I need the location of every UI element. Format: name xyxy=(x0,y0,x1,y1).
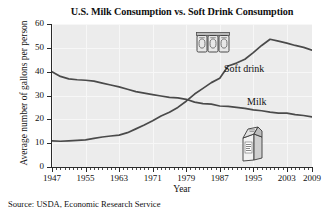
x-axis-tick-minor xyxy=(249,168,250,170)
x-axis-tick-minor xyxy=(203,168,204,170)
y-axis-tick xyxy=(47,119,52,120)
x-axis-tick-minor xyxy=(195,168,196,170)
x-axis-tick-minor xyxy=(161,168,162,170)
x-axis-tick-minor xyxy=(65,168,66,170)
y-axis-tick-label: 20 xyxy=(4,114,44,123)
x-axis-tick-minor xyxy=(304,168,305,170)
y-axis-tick xyxy=(47,143,52,144)
x-axis-tick-minor xyxy=(299,168,300,170)
chart-title: U.S. Milk Consumption vs. Soft Drink Con… xyxy=(52,6,312,18)
x-axis-tick-minor xyxy=(56,168,57,170)
x-axis-tick-major xyxy=(312,168,313,172)
x-axis-tick-label: 1995 xyxy=(235,173,271,183)
x-axis-tick-minor xyxy=(245,168,246,170)
soft-drink-series-label: Soft drink xyxy=(224,63,264,74)
x-axis-tick-minor xyxy=(262,168,263,170)
x-axis-tick-minor xyxy=(308,168,309,170)
x-axis-tick-label: 1971 xyxy=(135,173,171,183)
x-axis-tick-minor xyxy=(270,168,271,170)
y-axis-tick xyxy=(47,72,52,73)
y-axis-tick-label: 30 xyxy=(4,91,44,100)
x-axis-tick-minor xyxy=(90,168,91,170)
x-axis-tick-minor xyxy=(127,168,128,170)
series-line-soft-drink xyxy=(52,39,312,141)
x-axis-tick-major xyxy=(253,168,254,172)
source-note: Source: USDA, Economic Research Service xyxy=(8,199,161,209)
x-axis-tick-label: 1955 xyxy=(68,173,104,183)
x-axis-tick-minor xyxy=(107,168,108,170)
x-axis-tick-minor xyxy=(123,168,124,170)
x-axis-tick-minor xyxy=(81,168,82,170)
x-axis-tick-minor xyxy=(199,168,200,170)
x-axis-tick-minor xyxy=(232,168,233,170)
x-axis-tick-minor xyxy=(169,168,170,170)
x-axis-tick-minor xyxy=(207,168,208,170)
x-axis-tick-minor xyxy=(257,168,258,170)
x-axis-tick-major xyxy=(287,168,288,172)
y-axis-tick xyxy=(47,24,52,25)
x-axis-tick-minor xyxy=(77,168,78,170)
x-axis-tick-minor xyxy=(216,168,217,170)
x-axis-tick-major xyxy=(220,168,221,172)
y-axis-tick-label: 60 xyxy=(4,19,44,28)
soda-cans-icon xyxy=(196,32,230,53)
y-axis-tick-label: 0 xyxy=(4,162,44,171)
x-axis-tick-minor xyxy=(69,168,70,170)
x-axis-tick-minor xyxy=(144,168,145,170)
x-axis-tick-major xyxy=(119,168,120,172)
x-axis-tick-minor xyxy=(111,168,112,170)
x-axis-tick-minor xyxy=(115,168,116,170)
x-axis-tick-major xyxy=(86,168,87,172)
x-axis-tick-minor xyxy=(224,168,225,170)
x-axis-tick-minor xyxy=(165,168,166,170)
x-axis-tick-minor xyxy=(98,168,99,170)
x-axis-tick-minor xyxy=(94,168,95,170)
y-axis-tick xyxy=(47,96,52,97)
x-axis-tick-minor xyxy=(157,168,158,170)
x-axis-tick-label: 1947 xyxy=(34,173,70,183)
x-axis-tick-label: 2009 xyxy=(294,173,330,183)
y-axis-tick-label: 50 xyxy=(4,43,44,52)
chart-figure: U.S. Milk Consumption vs. Soft Drink Con… xyxy=(0,0,331,217)
series-layer xyxy=(52,24,312,167)
x-axis-tick-minor xyxy=(102,168,103,170)
milk-carton-icon xyxy=(241,126,264,162)
x-axis-tick-minor xyxy=(190,168,191,170)
x-axis-tick-minor xyxy=(140,168,141,170)
y-axis-tick-label: 10 xyxy=(4,138,44,147)
x-axis-tick-minor xyxy=(60,168,61,170)
x-axis-tick-minor xyxy=(237,168,238,170)
x-axis-tick-minor xyxy=(148,168,149,170)
x-axis-tick-minor xyxy=(73,168,74,170)
x-axis-tick-minor xyxy=(283,168,284,170)
x-axis-tick-label: 1963 xyxy=(101,173,137,183)
x-axis-tick-minor xyxy=(241,168,242,170)
x-axis-tick-minor xyxy=(274,168,275,170)
x-axis-tick-minor xyxy=(178,168,179,170)
x-axis-tick-minor xyxy=(266,168,267,170)
x-axis-tick-minor xyxy=(136,168,137,170)
x-axis-tick-minor xyxy=(228,168,229,170)
x-axis-tick-label: 1987 xyxy=(202,173,238,183)
x-axis-tick-major xyxy=(52,168,53,172)
y-axis-tick-label: 40 xyxy=(4,67,44,76)
x-axis-tick-minor xyxy=(174,168,175,170)
x-axis-tick-major xyxy=(186,168,187,172)
x-axis-title: Year xyxy=(52,184,312,194)
x-axis-tick-minor xyxy=(295,168,296,170)
plot-area xyxy=(52,24,312,167)
y-axis-tick xyxy=(47,48,52,49)
x-axis-tick-label: 1979 xyxy=(168,173,204,183)
x-axis-tick-minor xyxy=(132,168,133,170)
series-line-milk xyxy=(52,72,312,117)
x-axis-tick-minor xyxy=(211,168,212,170)
x-axis-tick-minor xyxy=(291,168,292,170)
x-axis-tick-minor xyxy=(278,168,279,170)
x-axis-tick-minor xyxy=(182,168,183,170)
milk-series-label: Milk xyxy=(247,96,266,107)
x-axis-tick-major xyxy=(153,168,154,172)
